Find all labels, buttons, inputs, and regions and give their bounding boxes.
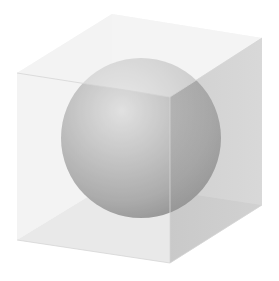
sphere-in-cube-diagram (0, 0, 279, 281)
diagram-canvas (0, 0, 279, 281)
cube-front-face (17, 73, 170, 263)
